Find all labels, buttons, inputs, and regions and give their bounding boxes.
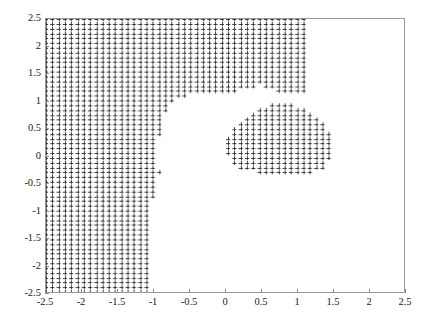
y-tick-label: -2 <box>32 260 41 271</box>
y-tick-label: -1.5 <box>24 233 41 244</box>
y-tick-label: -0.5 <box>24 178 41 189</box>
y-tick-label: 1.5 <box>28 68 41 79</box>
x-tick-label: 0.5 <box>254 297 267 308</box>
y-tick-label: 1 <box>36 95 41 106</box>
marker-scatter-layer <box>46 19 404 292</box>
y-tick-mark <box>45 293 49 294</box>
x-tick-mark <box>297 289 298 293</box>
y-tick-mark <box>45 183 49 184</box>
x-tick-mark <box>261 289 262 293</box>
y-tick-label: 0 <box>36 150 41 161</box>
x-tick-mark <box>81 289 82 293</box>
x-tick-mark <box>189 289 190 293</box>
y-tick-mark <box>45 238 49 239</box>
x-tick-label: -1.5 <box>109 297 126 308</box>
y-tick-mark <box>45 46 49 47</box>
x-tick-mark <box>117 289 118 293</box>
x-tick-mark <box>369 289 370 293</box>
y-tick-mark <box>45 156 49 157</box>
y-tick-mark <box>45 211 49 212</box>
y-tick-mark <box>45 73 49 74</box>
x-tick-label: -0.5 <box>181 297 198 308</box>
y-tick-label: 2.5 <box>28 13 41 24</box>
y-tick-label: -1 <box>32 205 41 216</box>
x-tick-mark <box>333 289 334 293</box>
x-tick-mark <box>225 289 226 293</box>
x-tick-label: 1.5 <box>326 297 339 308</box>
x-tick-mark <box>153 289 154 293</box>
x-tick-label: 0 <box>222 297 227 308</box>
scatter-plot-figure: -2.5-2-1.5-1-0.500.511.522.5 -2.5-2-1.5-… <box>0 0 429 316</box>
y-tick-mark <box>45 101 49 102</box>
x-tick-label: 2.5 <box>398 297 411 308</box>
y-tick-mark <box>45 128 49 129</box>
y-tick-label: 2 <box>36 40 41 51</box>
x-tick-label: 2 <box>366 297 371 308</box>
x-tick-mark <box>405 289 406 293</box>
y-tick-mark <box>45 18 49 19</box>
x-tick-label: 1 <box>294 297 299 308</box>
plot-area <box>45 18 405 293</box>
x-tick-label: -2.5 <box>37 297 54 308</box>
y-tick-mark <box>45 266 49 267</box>
x-tick-label: -1 <box>149 297 158 308</box>
x-tick-label: -2 <box>77 297 86 308</box>
x-tick-mark <box>45 289 46 293</box>
y-tick-label: 0.5 <box>28 123 41 134</box>
